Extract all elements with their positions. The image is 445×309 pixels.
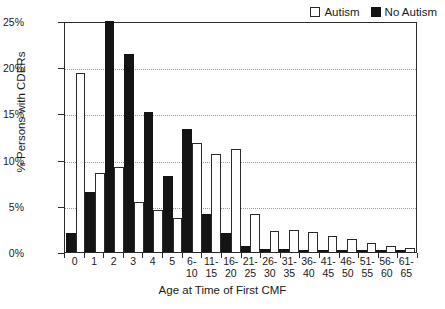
- bar-noautism: [163, 176, 173, 252]
- bar-autism: [95, 173, 105, 252]
- bar-group: [241, 23, 260, 252]
- bar-noautism: [202, 214, 212, 252]
- bar-noautism: [396, 250, 406, 252]
- bar-noautism: [318, 250, 328, 252]
- bar-chart: Autism No Autism % Persons with CDERs 0%…: [0, 0, 445, 309]
- x-axis-title: Age at Time of First CMF: [0, 284, 445, 296]
- bar-autism: [76, 73, 86, 252]
- bar-group: [221, 23, 240, 252]
- bar-autism: [134, 202, 144, 252]
- bar-autism: [114, 167, 124, 252]
- plot-area: [64, 22, 417, 253]
- bar-noautism: [299, 250, 309, 252]
- bar-autism: [250, 214, 260, 252]
- bar-group: [66, 23, 85, 252]
- bar-noautism: [182, 129, 192, 252]
- bar-autism: [289, 230, 299, 252]
- bar-autism: [405, 248, 415, 252]
- bar-group: [337, 23, 356, 252]
- y-axis-tick-label: 5%: [0, 202, 24, 212]
- bar-autism: [328, 236, 338, 252]
- bar-group: [318, 23, 337, 252]
- bar-noautism: [124, 54, 134, 252]
- legend-swatch-no-autism: [371, 7, 381, 17]
- bar-group: [144, 23, 163, 252]
- y-axis-tick-label: 15%: [0, 109, 24, 119]
- bar-group: [260, 23, 279, 252]
- x-axis-tick-mark: [241, 253, 242, 258]
- x-axis-tick-mark: [378, 253, 379, 258]
- bar-group: [299, 23, 318, 252]
- bar-autism: [367, 243, 377, 252]
- bar-group: [85, 23, 104, 252]
- x-axis-tick-mark: [319, 253, 320, 258]
- y-axis-tick-label: 0%: [0, 248, 24, 258]
- bar-noautism: [260, 249, 270, 252]
- legend-label-autism: Autism: [324, 6, 359, 18]
- chart-legend: Autism No Autism: [310, 6, 437, 18]
- x-axis-tick-mark: [123, 253, 124, 258]
- bar-noautism: [376, 250, 386, 252]
- bar-noautism: [337, 250, 347, 252]
- y-axis-tick-label: 20%: [0, 63, 24, 73]
- x-axis-tick-mark: [64, 253, 65, 258]
- x-axis-tick-mark: [299, 253, 300, 258]
- bar-group: [279, 23, 298, 252]
- bar-autism: [211, 154, 221, 252]
- bar-autism: [347, 239, 357, 252]
- bar-autism: [153, 210, 163, 252]
- bar-noautism: [357, 250, 367, 252]
- bar-group: [182, 23, 201, 252]
- x-axis-tick-mark: [201, 253, 202, 258]
- bar-noautism: [85, 192, 95, 252]
- bar-group: [396, 23, 415, 252]
- x-axis-tick-mark: [339, 253, 340, 258]
- x-axis-tick-mark: [417, 253, 418, 258]
- y-axis-tick-label: 10%: [0, 156, 24, 166]
- x-axis-tick-mark: [84, 253, 85, 258]
- x-axis-tick-mark: [358, 253, 359, 258]
- y-axis-tick-label: 25%: [0, 17, 24, 27]
- x-axis-tick-mark: [221, 253, 222, 258]
- bar-autism: [386, 246, 396, 252]
- x-axis-tick-mark: [182, 253, 183, 258]
- bar-noautism: [221, 233, 231, 252]
- x-axis-tick-mark: [103, 253, 104, 258]
- x-axis-tick-mark: [260, 253, 261, 258]
- bar-autism: [231, 149, 241, 252]
- bar-group: [124, 23, 143, 252]
- bar-noautism: [144, 112, 154, 252]
- bar-noautism: [279, 249, 289, 252]
- x-axis-tick-mark: [280, 253, 281, 258]
- legend-swatch-autism: [310, 7, 320, 17]
- legend-item-autism: Autism: [310, 6, 359, 18]
- bar-groups: [65, 23, 416, 252]
- x-axis-tick-mark: [162, 253, 163, 258]
- legend-item-no-autism: No Autism: [371, 6, 437, 18]
- bar-group: [105, 23, 124, 252]
- bar-autism: [173, 218, 183, 252]
- legend-label-no-autism: No Autism: [385, 6, 437, 18]
- bar-noautism: [241, 246, 251, 252]
- bar-autism: [192, 143, 202, 252]
- bar-group: [376, 23, 395, 252]
- x-axis-tick-mark: [142, 253, 143, 258]
- bar-noautism: [66, 233, 76, 252]
- bar-autism: [270, 231, 280, 252]
- x-axis-tick-mark: [397, 253, 398, 258]
- bar-noautism: [105, 21, 115, 252]
- bar-autism: [308, 232, 318, 252]
- bar-group: [163, 23, 182, 252]
- bar-group: [357, 23, 376, 252]
- bar-group: [202, 23, 221, 252]
